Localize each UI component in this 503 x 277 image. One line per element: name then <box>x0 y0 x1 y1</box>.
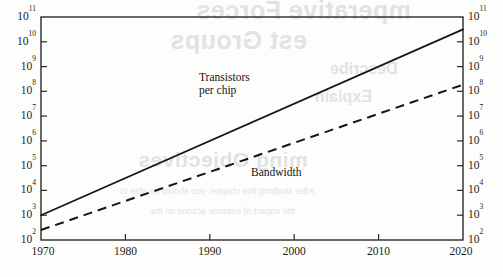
exponent: 3 <box>480 202 484 211</box>
x-axis-label-2020: 2020 <box>450 246 473 258</box>
x-axis-label-1980: 1980 <box>114 246 137 258</box>
exponent: 4 <box>32 178 36 187</box>
y-tick-marks-left <box>41 42 47 215</box>
y-axis-label-right-5: 106 <box>468 135 483 147</box>
y-tick-marks-right <box>457 42 463 215</box>
annotation-line-1: Transistors <box>199 71 250 84</box>
exponent: 11 <box>29 4 36 13</box>
exponent: 6 <box>480 128 484 137</box>
y-axis-label-right-3: 108 <box>468 85 483 97</box>
exponent: 7 <box>480 103 484 112</box>
y-axis-label-left-9: 102 <box>4 234 36 246</box>
x-axis-label-2010: 2010 <box>367 246 390 258</box>
exponent: 8 <box>480 78 484 87</box>
y-axis-label-left-0: 1011 <box>4 11 36 23</box>
y-axis-label-right-6: 105 <box>468 160 483 172</box>
plot-frame <box>41 17 463 240</box>
series-line-transistors-per-chip <box>41 29 463 215</box>
y-axis-label-left-2: 109 <box>4 61 36 73</box>
exponent: 4 <box>480 178 484 187</box>
exponent: 9 <box>480 54 484 63</box>
y-axis-label-right-8: 103 <box>468 209 483 221</box>
exponential-growth-chart: mperative Forces est Groups ming Objecti… <box>0 0 503 277</box>
plot-area <box>0 0 503 277</box>
exponent: 5 <box>480 153 484 162</box>
x-axis-label-1990: 1990 <box>198 246 221 258</box>
exponent: 2 <box>480 227 484 236</box>
y-axis-label-right-4: 107 <box>468 110 483 122</box>
y-axis-label-left-7: 104 <box>4 184 36 196</box>
y-axis-label-left-3: 108 <box>4 85 36 97</box>
exponent: 6 <box>32 128 36 137</box>
y-axis-label-right-1: 1010 <box>468 36 487 48</box>
y-axis-label-right-2: 109 <box>468 61 483 73</box>
y-axis-label-right-9: 102 <box>468 234 483 246</box>
y-axis-label-left-8: 103 <box>4 209 36 221</box>
exponent: 8 <box>32 78 36 87</box>
exponent: 11 <box>480 4 487 13</box>
x-tick-marks <box>125 234 378 240</box>
y-axis-label-left-4: 107 <box>4 110 36 122</box>
x-axis-label-2000: 2000 <box>283 246 306 258</box>
exponent: 3 <box>32 202 36 211</box>
y-axis-label-right-0: 1011 <box>468 11 487 23</box>
y-axis-label-left-6: 105 <box>4 160 36 172</box>
exponent: 7 <box>32 103 36 112</box>
y-axis-label-left-1: 1010 <box>4 36 36 48</box>
exponent: 2 <box>32 227 36 236</box>
series-annotation-transistors-per-chip: Transistors per chip <box>199 71 250 97</box>
exponent: 10 <box>29 29 37 38</box>
exponent: 9 <box>32 54 36 63</box>
annotation-line-2: per chip <box>199 84 250 97</box>
series-annotation-bandwidth: Bandwidth <box>251 166 301 179</box>
y-axis-label-left-5: 106 <box>4 135 36 147</box>
x-axis-label-1970: 1970 <box>32 246 55 258</box>
exponent: 10 <box>480 29 488 38</box>
y-axis-label-right-7: 104 <box>468 184 483 196</box>
series-line-bandwidth <box>41 85 463 230</box>
exponent: 5 <box>32 153 36 162</box>
